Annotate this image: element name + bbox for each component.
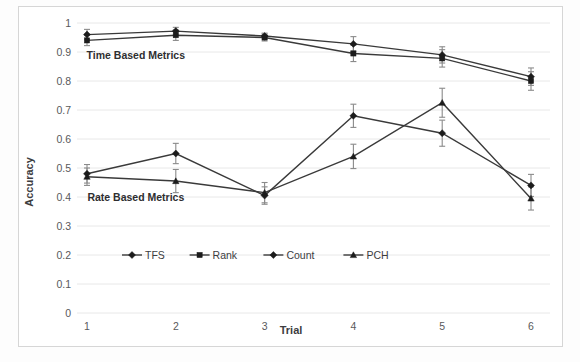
x-axis-tick-label: 2 <box>173 320 179 332</box>
gridlines <box>77 23 550 313</box>
data-point-pch-trial-5 <box>439 100 445 106</box>
data-point-rank-trial-5 <box>440 56 445 61</box>
data-point-rank-trial-1 <box>84 38 89 43</box>
y-axis-tick-label: 0.6 <box>56 133 71 145</box>
y-axis-tick-labels: 00.10.20.30.40.50.60.70.80.91 <box>56 17 71 319</box>
y-axis-tick-label: 0.7 <box>56 104 71 116</box>
legend-label: PCH <box>366 249 388 261</box>
x-axis-tick-label: 6 <box>528 320 534 332</box>
y-axis-tick-label: 0.5 <box>56 162 71 174</box>
series-line-pch <box>87 103 531 199</box>
group-annotation: Time Based Metrics <box>87 49 186 61</box>
x-axis-tick-labels: 123456 <box>84 320 534 332</box>
data-point-count-trial-6 <box>528 182 535 189</box>
x-axis-title: Trial <box>280 324 303 336</box>
data-point-count-trial-2 <box>172 150 179 157</box>
y-axis-tick-label: 0.9 <box>56 46 71 58</box>
data-point-tfs-trial-4 <box>350 40 357 47</box>
legend-entry-count[interactable]: Count <box>263 249 314 261</box>
legend-label: Rank <box>213 249 238 261</box>
y-axis-tick-label: 0.4 <box>56 191 71 203</box>
group-annotation: Rate Based Metrics <box>87 191 184 203</box>
plot-frame: 00.10.20.30.40.50.60.70.80.91 123456 Acc… <box>18 6 563 347</box>
chart-figure: 00.10.20.30.40.50.60.70.80.91 123456 Acc… <box>0 0 580 362</box>
y-axis-tick-label: 0.3 <box>56 220 71 232</box>
x-axis-tick-label: 4 <box>350 320 356 332</box>
data-point-tfs-trial-1 <box>84 31 91 38</box>
data-point-rank-trial-2 <box>173 33 178 38</box>
legend-entry-rank[interactable]: Rank <box>190 249 238 261</box>
data-point-rank-trial-6 <box>528 78 533 83</box>
legend-entry-pch[interactable]: PCH <box>343 249 388 261</box>
legend-label: TFS <box>145 249 165 261</box>
y-axis-tick-label: 0 <box>65 307 71 319</box>
x-axis-tick-label: 3 <box>262 320 268 332</box>
data-point-rank-trial-3 <box>262 35 267 40</box>
accuracy-vs-trial-line-chart: 00.10.20.30.40.50.60.70.80.91 123456 Acc… <box>19 7 562 346</box>
legend-label: Count <box>286 249 314 261</box>
y-axis-title: Accuracy <box>23 156 35 206</box>
data-point-count-trial-5 <box>439 130 446 137</box>
x-axis-tick-label: 1 <box>84 320 90 332</box>
x-axis-tick-label: 5 <box>439 320 445 332</box>
data-point-rank-trial-4 <box>351 51 356 56</box>
series-line-count <box>87 116 531 196</box>
y-axis-tick-label: 0.2 <box>56 249 71 261</box>
data-point-pch-trial-4 <box>350 153 356 159</box>
y-axis-tick-label: 0.1 <box>56 278 71 290</box>
y-axis-tick-label: 0.8 <box>56 75 71 87</box>
y-axis-tick-label: 1 <box>65 17 71 29</box>
